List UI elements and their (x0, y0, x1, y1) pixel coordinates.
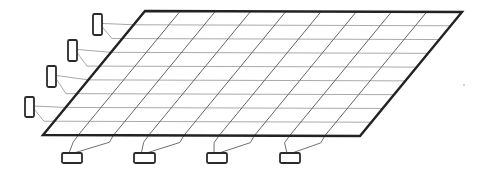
row-lead (102, 27, 122, 39)
column-lead (74, 135, 113, 153)
column-lead (285, 136, 290, 153)
column-terminals (62, 153, 300, 163)
row-line (122, 39, 439, 40)
row-terminals (25, 14, 102, 117)
row-lead (77, 53, 100, 67)
column-terminal (280, 153, 300, 163)
row-line (88, 80, 405, 81)
row-lead (77, 49, 111, 52)
sensor-grid-diagram (0, 0, 485, 174)
row-line (54, 121, 371, 122)
row-lead (34, 109, 54, 121)
column-lead (219, 136, 254, 153)
column-lead (69, 135, 78, 153)
column-lead (141, 135, 148, 153)
panel-outline (43, 11, 462, 136)
row-line (100, 66, 417, 67)
row-line (134, 25, 451, 26)
column-lead (292, 136, 325, 153)
row-terminal (47, 66, 56, 87)
row-terminal (93, 14, 102, 35)
row-terminal (68, 40, 77, 61)
column-terminal (207, 153, 227, 163)
row-line (66, 107, 383, 108)
row-electrode-lines (54, 25, 450, 122)
column-lead (214, 136, 219, 153)
column-terminal (62, 153, 82, 163)
row-terminal (25, 97, 34, 117)
row-lead (102, 23, 134, 24)
row-lead (56, 79, 77, 94)
column-lead-wires (69, 135, 325, 153)
column-terminal (134, 153, 155, 163)
row-line (111, 52, 428, 53)
row-lead (34, 106, 66, 107)
stray-dot (463, 84, 465, 86)
row-lead (56, 75, 88, 79)
column-lead (147, 135, 184, 153)
row-line (77, 94, 394, 95)
